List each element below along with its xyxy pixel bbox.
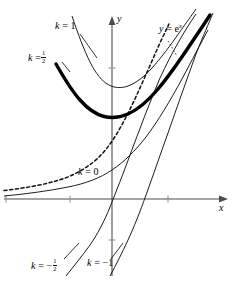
y-axis-arrowhead xyxy=(109,16,116,25)
curve-label-k-equals-one-half: k =12 xyxy=(28,50,46,64)
curve-label-k-equals-minus-one-half: k = −12 xyxy=(31,258,57,272)
curve-label-k-equals-0: k = 0 xyxy=(78,167,99,177)
x-axis-label: x xyxy=(219,203,224,213)
curve-label-y-equals-exp-x: y = ex xyxy=(159,24,182,34)
leader-line-k-equals-one-half xyxy=(62,62,70,72)
leader-lines-group xyxy=(62,34,177,259)
curve-label-k-equals-1: k = 1 xyxy=(55,21,76,31)
curve-plot xyxy=(0,0,238,292)
y-axis-label: y xyxy=(117,14,122,24)
leader-line-k-equals-minus-one-half xyxy=(64,243,79,259)
curve-label-k-equals-minus-1: k = −1 xyxy=(87,258,113,268)
curve-k-equals-minus-1 xyxy=(110,13,213,276)
figure-canvas: k = 1 k =12 k = 0 k = −12 k = −1 y = ex … xyxy=(0,0,238,292)
